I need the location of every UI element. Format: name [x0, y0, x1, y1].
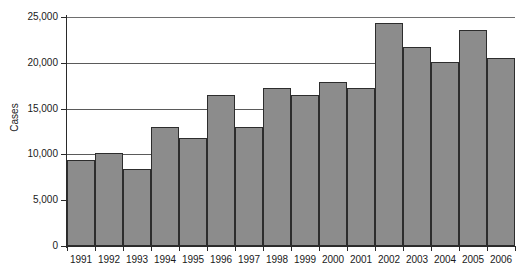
plot-area [67, 17, 515, 246]
bar-2004 [431, 62, 459, 246]
bar-1999 [291, 95, 319, 246]
x-tick [263, 246, 264, 251]
bar-1992 [95, 153, 123, 246]
y-tick-label: 5,000 [2, 195, 58, 205]
x-tick [291, 246, 292, 251]
x-tick [95, 246, 96, 251]
bar-2002 [375, 23, 403, 246]
x-tick [179, 246, 180, 251]
bar-2005 [459, 30, 487, 246]
y-tick-label: 25,000 [2, 12, 58, 22]
x-tick [347, 246, 348, 251]
y-tick [61, 63, 67, 64]
x-tick [319, 246, 320, 251]
gridline [67, 17, 515, 18]
x-tick [403, 246, 404, 251]
bar-1996 [207, 95, 235, 246]
y-axis-labels: Cases 25,00020,00015,00010,0005,0000 [0, 0, 58, 274]
y-tick-label: 10,000 [2, 149, 58, 159]
y-tick [61, 200, 67, 201]
bar-1995 [179, 138, 207, 246]
x-tick [375, 246, 376, 251]
y-axis-title: Cases [9, 78, 20, 158]
y-tick [61, 109, 67, 110]
bar-2001 [347, 88, 375, 246]
x-tick [123, 246, 124, 251]
bar-1998 [263, 88, 291, 246]
x-tick [431, 246, 432, 251]
y-tick [61, 154, 67, 155]
x-tick [459, 246, 460, 251]
x-tick-label: 2006 [484, 254, 518, 265]
bar-2000 [319, 82, 347, 246]
x-tick [515, 246, 516, 251]
bar-chart: Cases 25,00020,00015,00010,0005,0000 199… [0, 0, 527, 274]
bar-1993 [123, 169, 151, 246]
y-tick-label: 0 [2, 241, 58, 251]
y-tick-label: 20,000 [2, 58, 58, 68]
x-tick [235, 246, 236, 251]
bar-2003 [403, 47, 431, 246]
y-tick-label: 15,000 [2, 104, 58, 114]
y-tick [61, 17, 67, 18]
bar-1997 [235, 127, 263, 246]
x-tick [151, 246, 152, 251]
bar-2006 [487, 58, 515, 246]
x-tick [67, 246, 68, 251]
x-tick [207, 246, 208, 251]
bar-1991 [67, 160, 95, 246]
bar-1994 [151, 127, 179, 246]
x-tick [487, 246, 488, 251]
